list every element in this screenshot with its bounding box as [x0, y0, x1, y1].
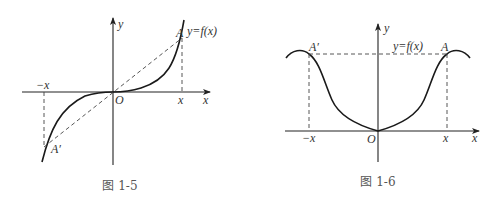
point-a-label: A	[175, 26, 184, 40]
tick-pos-label: x	[177, 93, 184, 107]
tick-pos-label: x	[442, 131, 449, 145]
figure-caption: 图 1-6	[360, 175, 395, 189]
tick-neg-label: −x	[36, 78, 50, 92]
figure-1-5: y x O A y=f(x) A′ x −x 图 1-5	[22, 17, 217, 193]
figures-canvas: y x O A y=f(x) A′ x −x 图 1-5 y x O A y=f…	[0, 0, 499, 199]
origin-label: O	[367, 132, 376, 146]
figure-1-6: y x O A y=f(x) A′ x −x 图 1-6	[285, 21, 479, 189]
point-a-label: A	[440, 40, 449, 54]
x-axis-label: x	[471, 131, 478, 145]
y-axis-label: y	[117, 17, 124, 31]
figure-caption: 图 1-5	[102, 179, 137, 193]
origin-label: O	[115, 93, 124, 107]
x-axis-label: x	[202, 93, 209, 107]
tick-neg-label: −x	[302, 131, 316, 145]
point-a-prime-label: A′	[308, 40, 319, 54]
function-label: y=f(x)	[392, 39, 423, 53]
y-axis-label: y	[383, 21, 390, 35]
function-label: y=f(x)	[186, 24, 217, 38]
point-a-prime-label: A′	[50, 142, 61, 156]
